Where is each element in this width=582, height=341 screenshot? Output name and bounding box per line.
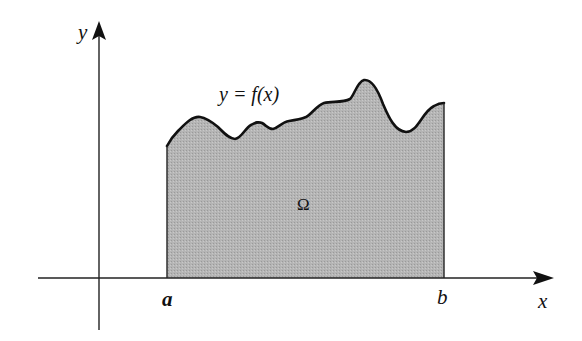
- diagram-canvas: [0, 0, 582, 341]
- bound-b-label: b: [437, 287, 448, 308]
- bound-a-label: a: [162, 289, 173, 310]
- region-omega: [167, 80, 444, 278]
- curve-label: y = f(x): [219, 84, 279, 104]
- x-axis-label: x: [538, 291, 547, 312]
- y-axis-label: y: [78, 22, 87, 43]
- area-under-curve-diagram: y x y = f(x) Ω a b: [0, 0, 582, 341]
- region-label: Ω: [297, 196, 310, 213]
